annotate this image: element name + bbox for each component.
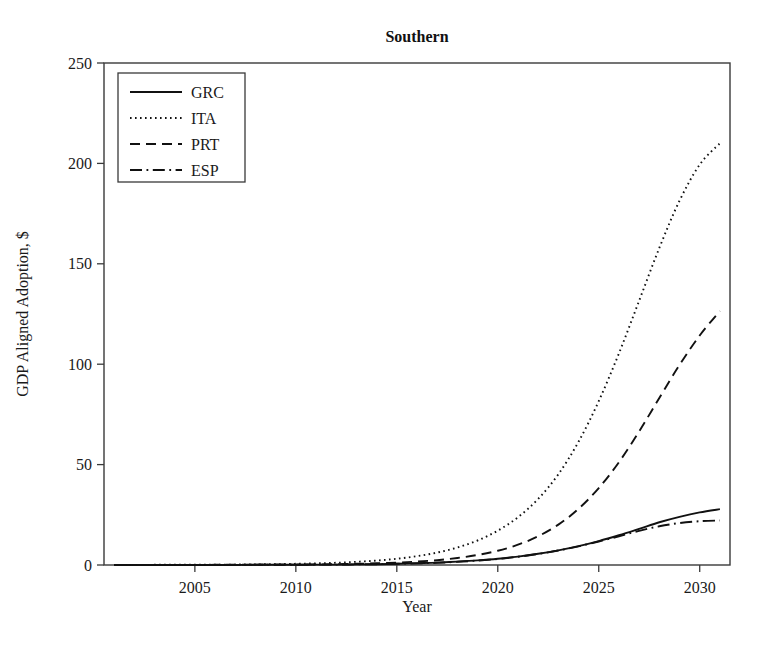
x-tick-label: 2005 [179, 579, 211, 596]
x-tick-label: 2010 [280, 579, 312, 596]
y-axis-label: GDP Aligned Adoption, $ [14, 231, 32, 397]
x-tick-label: 2015 [381, 579, 413, 596]
y-tick-label: 50 [76, 456, 92, 473]
series-line-prt [114, 311, 720, 565]
y-tick-label: 0 [84, 557, 92, 574]
y-tick-label: 100 [68, 356, 92, 373]
legend-label-prt[interactable]: PRT [191, 136, 220, 153]
y-tick-label: 250 [68, 55, 92, 72]
legend-label-esp[interactable]: ESP [191, 162, 219, 179]
x-tick-label: 2025 [583, 579, 615, 596]
x-axis-ticks: 200520102015202020252030 [179, 565, 716, 596]
series-line-grc [114, 509, 720, 565]
y-tick-label: 150 [68, 255, 92, 272]
x-tick-label: 2030 [684, 579, 716, 596]
y-tick-label: 200 [68, 155, 92, 172]
legend-box [118, 73, 245, 182]
x-axis-label: Year [402, 598, 432, 615]
chart-canvas: Southern 050100150200250 200520102015202… [0, 0, 766, 648]
x-tick-label: 2020 [482, 579, 514, 596]
series-line-ita [114, 143, 720, 565]
legend-label-grc[interactable]: GRC [191, 84, 224, 101]
chart-title: Southern [385, 28, 448, 45]
y-axis-ticks: 050100150200250 [68, 55, 104, 574]
chart-legend[interactable]: GRCITAPRTESP [118, 73, 245, 182]
series-line-esp [114, 520, 720, 565]
chart-figure: Southern 050100150200250 200520102015202… [0, 0, 766, 648]
legend-label-ita[interactable]: ITA [191, 110, 217, 127]
data-series-group [114, 143, 720, 565]
